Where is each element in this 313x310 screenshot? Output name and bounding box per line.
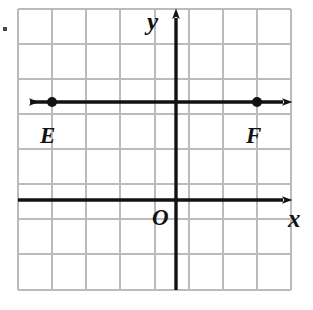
scan-speck-artifact xyxy=(3,27,7,31)
origin-label: O xyxy=(152,205,169,230)
coordinate-grid-svg: E F O y x xyxy=(0,0,313,310)
point-e-dot xyxy=(47,97,57,107)
point-e-label: E xyxy=(39,123,55,148)
x-axis-label: x xyxy=(287,205,301,232)
y-axis-label: y xyxy=(144,8,159,35)
figure-background xyxy=(0,0,313,310)
coordinate-grid-figure: E F O y x xyxy=(0,0,313,310)
point-f-label: F xyxy=(245,123,261,148)
point-f-dot xyxy=(252,97,262,107)
